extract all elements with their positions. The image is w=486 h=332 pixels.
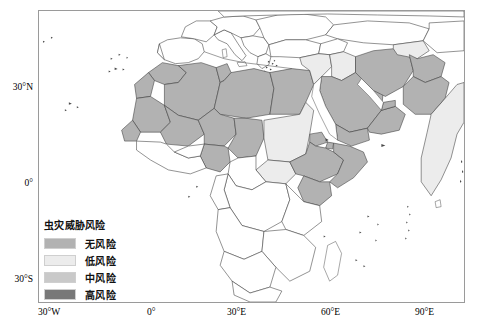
- islands-cape-verde: [65, 102, 79, 111]
- y-axis-label-30n: 30°N: [0, 82, 33, 92]
- legend-swatch-medium-risk: [44, 272, 76, 283]
- legend-item-high-risk: 高风险: [44, 286, 144, 302]
- legend-label-medium-risk: 中风险: [85, 270, 116, 285]
- legend-swatch-high-risk: [44, 289, 76, 300]
- map-legend: 虫灾威胁风险 无风险 低风险 中风险 高风险: [44, 217, 144, 303]
- x-axis-label-30e: 30°E: [227, 307, 246, 317]
- islands-bay-of-bengal: [460, 160, 463, 183]
- region-namibia-botswana: [220, 251, 276, 293]
- islands-maldives: [405, 206, 410, 240]
- islands-mascarene: [356, 259, 366, 267]
- island-sri-lanka: [435, 200, 441, 208]
- y-axis-label-30s: 30°S: [0, 274, 33, 284]
- legend-swatch-low-risk: [44, 255, 76, 266]
- legend-swatch-no-risk: [44, 238, 76, 249]
- legend-label-low-risk: 低风险: [85, 253, 116, 268]
- x-axis-label-0: 0°: [147, 307, 156, 317]
- region-djibouti: [326, 142, 334, 149]
- islands-comoros: [324, 235, 326, 237]
- legend-label-no-risk: 无风险: [85, 236, 116, 251]
- islands-azores: [43, 37, 53, 43]
- map-plot-area: .cty { fill:#ffffff; stroke:#3a3a3a; str…: [38, 10, 465, 303]
- map-figure: .cty { fill:#ffffff; stroke:#3a3a3a; str…: [0, 0, 486, 332]
- x-axis-label-60e: 60°E: [321, 307, 340, 317]
- islands-seychelles: [359, 216, 378, 242]
- region-russia-north: [218, 11, 464, 17]
- island-sardinia: [222, 49, 227, 58]
- legend-item-no-risk: 无风险: [44, 235, 144, 251]
- legend-title: 虫灾威胁风险: [44, 217, 144, 232]
- legend-item-medium-risk: 中风险: [44, 269, 144, 285]
- region-western-sahara: [135, 73, 155, 99]
- islands-gulf-of-guinea: [188, 186, 198, 198]
- island-madagascar: [324, 241, 342, 281]
- x-axis-label-90e: 90°E: [415, 307, 434, 317]
- y-axis-label-0: 0°: [0, 178, 33, 188]
- legend-item-low-risk: 低风险: [44, 252, 144, 268]
- islands-canary-madeira: [109, 54, 128, 73]
- legend-label-high-risk: 高风险: [85, 287, 116, 302]
- islands-socotra: [381, 144, 385, 147]
- x-axis-label-30w: 30°W: [38, 307, 60, 317]
- region-china-west: [423, 21, 464, 53]
